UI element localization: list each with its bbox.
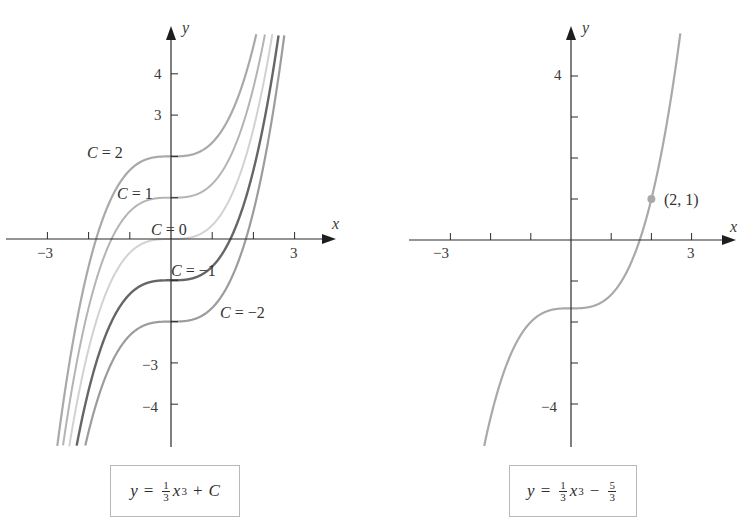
formula-exponent: 3 <box>181 485 187 497</box>
y-tick-label-4: 4 <box>154 66 162 82</box>
y-tick-label-neg4: −4 <box>142 399 158 415</box>
formula-lhs: y <box>527 481 535 501</box>
formula-fraction-constant: 5 3 <box>608 480 616 503</box>
y-tick-label-4: 4 <box>554 67 562 83</box>
formula-fraction: 1 3 <box>559 480 567 503</box>
y-axis-label: y <box>180 19 190 37</box>
formula-box-general: y = 1 3 x3 + C <box>110 465 240 517</box>
left-plot: x y −3 3 4 3 −3 −4 C = 2C = 1C = 0C = −1… <box>6 19 339 447</box>
x-tick-label-neg3: −3 <box>433 245 449 261</box>
formula-fraction: 1 3 <box>162 480 170 503</box>
x-tick-label-3: 3 <box>687 245 695 261</box>
right-plot: x y −3 3 4 −4 (2, 1) <box>409 19 737 447</box>
y-axis-label: y <box>580 19 590 37</box>
y-axis-arrow-icon <box>566 26 576 40</box>
x-axis-arrow-icon <box>722 235 736 245</box>
formula-operator: − <box>590 481 600 501</box>
formula-equals: = <box>144 481 154 501</box>
formula-exponent: 3 <box>578 485 584 497</box>
y-tick-label-neg4: −4 <box>541 399 557 415</box>
formula-box-particular: y = 1 3 x3 − 5 3 <box>509 465 637 517</box>
point-label: (2, 1) <box>664 191 699 209</box>
x-axis-arrow-icon <box>322 234 336 244</box>
fraction-numerator: 5 <box>608 480 616 492</box>
curve <box>77 36 279 446</box>
formula-equals: = <box>541 481 551 501</box>
fraction-denominator: 3 <box>163 492 169 503</box>
curve-label: C = −1 <box>171 262 216 279</box>
curve-label: C = 1 <box>117 185 153 202</box>
formula-variable: x <box>570 481 578 501</box>
formula-operator: + <box>193 481 203 501</box>
y-tick-label-neg3: −3 <box>142 357 158 373</box>
fraction-numerator: 1 <box>162 480 170 492</box>
y-tick-label-3: 3 <box>154 107 162 123</box>
curve <box>85 35 284 445</box>
x-axis-label: x <box>331 215 339 232</box>
x-axis-label: x <box>729 218 737 235</box>
fraction-denominator: 3 <box>609 492 615 503</box>
formula-constant: C <box>208 481 219 501</box>
curve-label: C = 0 <box>151 221 187 238</box>
fraction-denominator: 3 <box>560 492 566 503</box>
curve-label: C = 2 <box>87 144 123 161</box>
fraction-numerator: 1 <box>559 480 567 492</box>
y-axis-arrow-icon <box>166 26 176 40</box>
point-marker <box>647 195 655 203</box>
x-tick-label-3: 3 <box>290 245 298 261</box>
x-tick-label-neg3: −3 <box>37 245 53 261</box>
formula-variable: x <box>173 481 181 501</box>
curve-label: C = −2 <box>220 304 265 321</box>
figure-canvas: x y −3 3 4 3 −3 −4 C = 2C = 1C = 0C = −1… <box>0 0 746 529</box>
formula-lhs: y <box>130 481 138 501</box>
